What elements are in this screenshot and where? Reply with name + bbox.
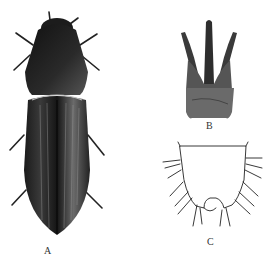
- larval-segment-drawing: [163, 142, 262, 226]
- figure: A B C: [0, 0, 269, 263]
- panel-label-b: B: [206, 120, 213, 131]
- panel-label-a: A: [44, 245, 51, 256]
- beetle-image: [0, 0, 269, 263]
- panel-label-c: C: [207, 236, 214, 247]
- genitalia-image: [181, 20, 237, 118]
